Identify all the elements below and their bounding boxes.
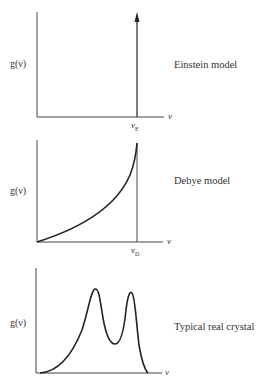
subscript-e: E [135, 126, 139, 132]
crystal-title: Typical real crystal [174, 321, 254, 332]
einstein-y-label: g(ν) [10, 58, 26, 69]
real-crystal-panel [36, 268, 162, 373]
crystal-x-label: ν [165, 367, 169, 377]
debye-marker-label: νD [131, 245, 139, 257]
subscript-d: D [135, 251, 139, 257]
crystal-curve [40, 289, 148, 373]
einstein-marker-label: νE [131, 120, 139, 132]
debye-x-label: ν [167, 236, 171, 246]
debye-panel [37, 140, 163, 242]
einstein-title: Einstein model [174, 59, 237, 70]
arrow-head-icon [135, 12, 140, 22]
einstein-panel [37, 12, 164, 117]
debye-curve [37, 143, 137, 242]
debye-title: Debye model [174, 175, 230, 186]
debye-y-label: g(ν) [10, 185, 26, 196]
einstein-x-label: ν [168, 111, 172, 121]
crystal-y-label: g(ν) [10, 317, 26, 328]
